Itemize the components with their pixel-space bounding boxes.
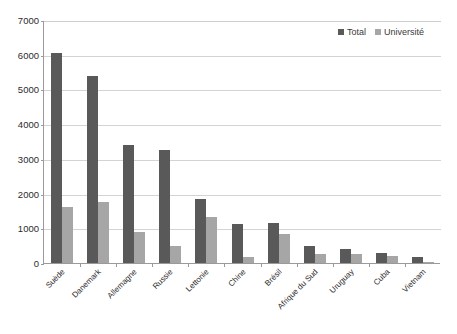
bar-chart: 01000200030004000500060007000 SuèdeDanem…	[0, 0, 457, 334]
bar-universite[interactable]	[134, 232, 145, 263]
y-axis-tick-mark	[41, 264, 44, 265]
legend-swatch-icon	[338, 29, 344, 35]
y-axis-tick-label: 5000	[18, 86, 39, 96]
bar-group	[369, 20, 405, 263]
bar-pair	[340, 249, 362, 263]
x-axis-label-cell: Danemark	[79, 266, 115, 334]
y-axis-tick-label: 7000	[18, 16, 39, 26]
bar-group	[405, 20, 441, 263]
x-axis-tick-label: Brésil	[263, 268, 283, 288]
bar-pair	[232, 224, 254, 263]
bar-total[interactable]	[340, 249, 351, 263]
bar-universite[interactable]	[315, 254, 326, 263]
x-axis-label-cell: Allemagne	[115, 266, 151, 334]
x-axis-tick-label: Vietnam	[401, 268, 427, 294]
legend-item[interactable]: Total	[338, 27, 366, 37]
legend-label: Total	[347, 27, 366, 37]
bar-universite[interactable]	[351, 254, 362, 263]
x-axis-label-cell: Chine	[223, 266, 259, 334]
x-axis-label-cell: Afrique du Sud	[296, 266, 332, 334]
x-axis-label-cell: Suède	[43, 266, 79, 334]
bar-pair	[412, 257, 434, 263]
bar-group	[333, 20, 369, 263]
bar-universite[interactable]	[206, 217, 217, 263]
bar-total[interactable]	[159, 150, 170, 263]
legend-item[interactable]: Université	[375, 27, 424, 37]
x-axis-label-cell: Lettonie	[187, 266, 223, 334]
y-axis-tick-label: 1000	[18, 225, 39, 235]
bar-total[interactable]	[87, 76, 98, 263]
bar-total[interactable]	[412, 257, 423, 263]
bar-total[interactable]	[195, 199, 206, 263]
y-axis-tick-label: 2000	[18, 190, 39, 200]
x-axis-label-cell: Russie	[151, 266, 187, 334]
bar-pair	[195, 199, 217, 263]
bar-universite[interactable]	[387, 256, 398, 263]
legend-label: Université	[384, 27, 424, 37]
bar-universite[interactable]	[243, 257, 254, 263]
x-axis-labels: SuèdeDanemarkAllemagneRussieLettonieChin…	[43, 266, 440, 334]
y-axis-tick-label: 6000	[18, 51, 39, 61]
bar-universite[interactable]	[98, 202, 109, 263]
x-axis-tick-label: Chine	[227, 268, 247, 288]
bar-pair	[376, 253, 398, 263]
bar-group	[261, 20, 297, 263]
bar-pair	[123, 145, 145, 263]
bar-total[interactable]	[232, 224, 243, 263]
legend-swatch-icon	[375, 29, 381, 35]
bar-group	[152, 20, 188, 263]
x-axis-tick-label: Suède	[45, 268, 67, 290]
bar-group	[188, 20, 224, 263]
bar-pair	[304, 246, 326, 263]
bar-universite[interactable]	[170, 246, 181, 263]
bar-group	[44, 20, 80, 263]
bar-universite[interactable]	[279, 234, 290, 264]
y-axis-tick-label: 3000	[18, 155, 39, 165]
x-axis-tick-label: Uruguay	[328, 268, 355, 295]
bar-group	[224, 20, 260, 263]
bar-total[interactable]	[376, 253, 387, 263]
bar-group	[297, 20, 333, 263]
bar-total[interactable]	[304, 246, 315, 263]
x-axis-label-cell: Cuba	[368, 266, 404, 334]
bar-group	[116, 20, 152, 263]
bar-pair	[159, 150, 181, 263]
bar-universite[interactable]	[62, 207, 73, 263]
x-axis-label-cell: Uruguay	[332, 266, 368, 334]
x-axis-label-cell: Vietnam	[404, 266, 440, 334]
bar-pair	[87, 76, 109, 263]
chart-legend: TotalUniversité	[338, 27, 424, 37]
bars-layer	[44, 20, 441, 263]
bar-total[interactable]	[51, 53, 62, 263]
bar-pair	[268, 223, 290, 263]
x-axis-tick-label: Lettonie	[185, 268, 211, 294]
plot-area: 01000200030004000500060007000	[43, 21, 440, 264]
bar-pair	[51, 53, 73, 263]
bar-total[interactable]	[268, 223, 279, 263]
y-axis-tick-label: 4000	[18, 120, 39, 130]
x-axis-tick-label: Cuba	[372, 268, 391, 287]
bar-group	[80, 20, 116, 263]
bar-universite[interactable]	[423, 262, 434, 263]
bar-total[interactable]	[123, 145, 134, 263]
x-axis-tick-label: Russie	[152, 268, 175, 291]
y-axis-tick-label: 0	[34, 259, 39, 269]
